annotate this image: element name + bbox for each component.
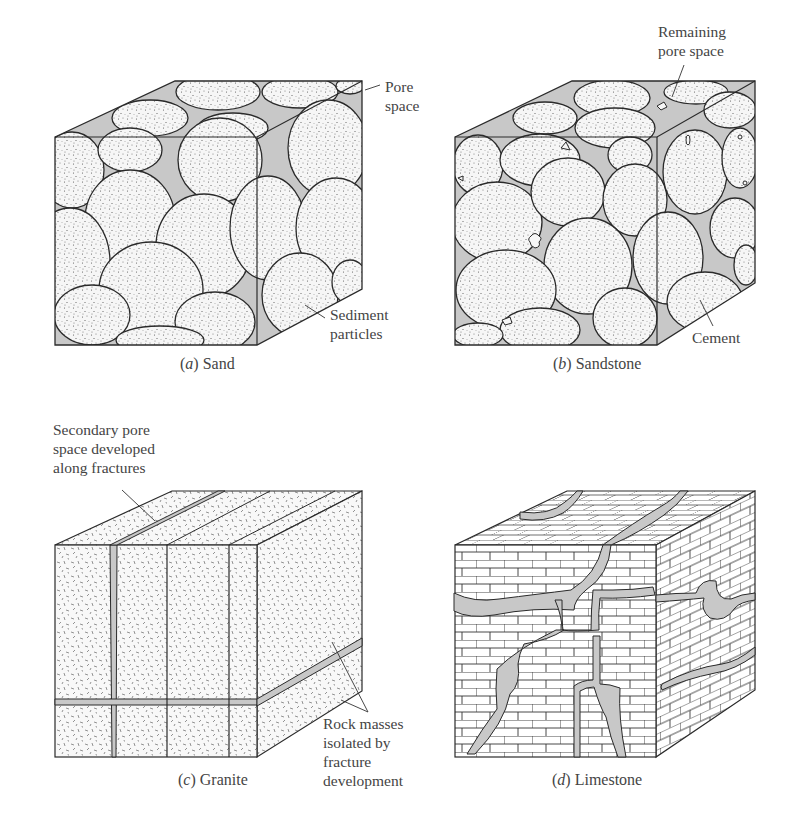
caption-d: (d) Limestone: [552, 771, 642, 789]
panel-d-limestone-cube: [454, 491, 755, 757]
panel-b-sandstone-cube: [450, 65, 770, 355]
label-remaining-pore-space: Remaining pore space: [658, 22, 726, 60]
caption-b: (b) Sandstone: [553, 355, 641, 373]
pore-space-leader: [365, 85, 380, 90]
label-cement: Cement: [692, 328, 740, 347]
label-rock-masses: Rock masses isolated by fracture develop…: [323, 714, 404, 790]
panel-a-sand-cube: [30, 74, 380, 355]
label-secondary-pore-space: Secondary pore space developed along fra…: [53, 420, 155, 477]
caption-c: (c) Granite: [178, 771, 248, 789]
figure-canvas: [0, 0, 797, 829]
panel-c-granite-cube: [55, 490, 368, 757]
label-sediment-particles: Sediment particles: [330, 305, 389, 343]
caption-a: (a) Sand: [180, 355, 235, 373]
label-pore-space: Pore space: [385, 77, 419, 115]
